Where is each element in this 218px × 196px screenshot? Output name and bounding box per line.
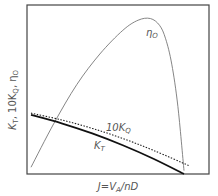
series-label: 10KQ xyxy=(106,122,131,135)
x-axis-label: J=VA/nD xyxy=(96,181,139,194)
series-label: ηO xyxy=(146,27,158,40)
y-axis-label: KT, 10KQ, ηO xyxy=(7,69,20,130)
series-line-o xyxy=(31,18,184,170)
series-layer xyxy=(31,18,189,174)
series-label: KT xyxy=(94,140,106,153)
series-labels: ηO10KQKT xyxy=(94,27,158,153)
propeller-characteristics-chart: ηO10KQKT J=VA/nD KT, 10KQ, ηO xyxy=(0,0,218,196)
